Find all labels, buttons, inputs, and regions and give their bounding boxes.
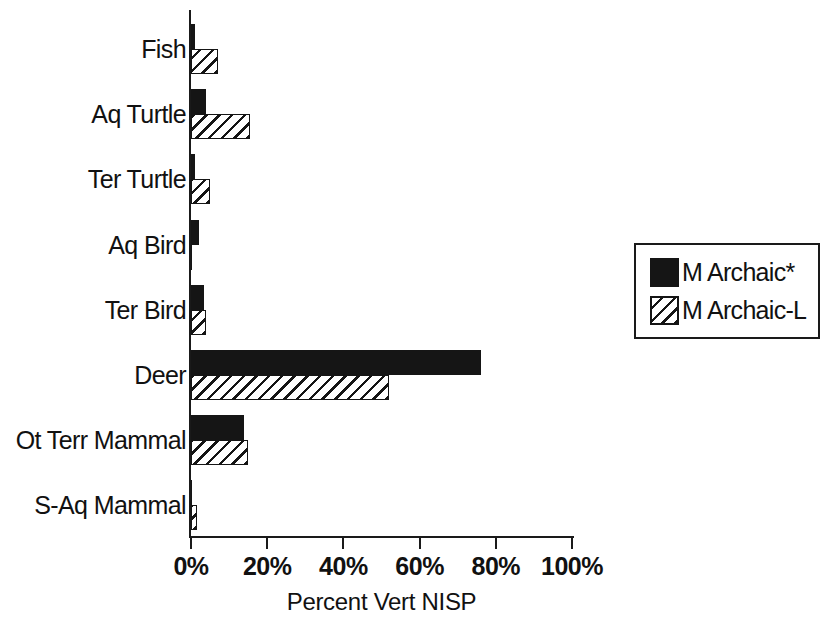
bar-m-archaic-l xyxy=(191,440,248,465)
bar-m-archaic-l xyxy=(191,505,197,530)
bar-m-archaic xyxy=(191,285,204,310)
bar-m-archaic xyxy=(191,89,206,114)
y-axis-label-s-aq-mammal: S-Aq Mammal xyxy=(34,491,186,520)
bar-m-archaic-l xyxy=(191,49,218,74)
x-axis-title: Percent Vert NISP xyxy=(191,588,572,616)
chart-legend: M Archaic* M Archaic-L xyxy=(634,243,820,339)
bar-m-archaic-l xyxy=(191,375,389,400)
bar-m-archaic-l xyxy=(191,245,192,270)
y-axis-label-ter-bird: Ter Bird xyxy=(105,295,186,324)
y-axis-label-ot-terr-mammal: Ot Terr Mammal xyxy=(16,426,186,455)
x-axis-tick xyxy=(266,538,268,549)
bar-m-archaic-l xyxy=(191,310,206,335)
y-axis-label-aq-bird: Aq Bird xyxy=(108,230,186,259)
y-axis-label-deer: Deer xyxy=(134,361,186,390)
x-axis-tick-label: 80% xyxy=(472,552,521,581)
legend-label-0: M Archaic* xyxy=(682,258,794,287)
x-axis-tick-label: 40% xyxy=(319,552,368,581)
x-axis-tick xyxy=(495,538,497,549)
bar-m-archaic-l xyxy=(191,179,210,204)
x-axis-tick-label: 60% xyxy=(395,552,444,581)
x-axis-tick xyxy=(571,538,573,549)
bar-m-archaic xyxy=(191,415,244,440)
bar-m-archaic xyxy=(191,480,192,505)
y-axis-label-aq-turtle: Aq Turtle xyxy=(91,100,186,129)
plot-area xyxy=(191,10,572,537)
legend-item-m-archaic: M Archaic* xyxy=(650,258,794,287)
y-axis-label-ter-turtle: Ter Turtle xyxy=(88,165,186,194)
bar-m-archaic xyxy=(191,220,199,245)
legend-item-m-archaic-l: M Archaic-L xyxy=(650,296,806,325)
bar-m-archaic xyxy=(191,24,195,49)
solid-black-swatch-icon xyxy=(650,258,679,287)
hatched-swatch-icon xyxy=(650,296,679,325)
x-axis-tick xyxy=(419,538,421,549)
bar-m-archaic xyxy=(191,154,195,179)
bar-m-archaic-l xyxy=(191,114,250,139)
x-axis-tick xyxy=(190,538,192,549)
legend-label-1: M Archaic-L xyxy=(682,296,806,325)
bar-m-archaic xyxy=(191,350,481,375)
y-axis-label-fish: Fish xyxy=(141,35,186,64)
x-axis-tick-label: 0% xyxy=(173,552,208,581)
bar-chart: 0%20%40%60%80%100% FishAq TurtleTer Turt… xyxy=(0,0,824,623)
x-axis-tick xyxy=(342,538,344,549)
x-axis-tick-label: 100% xyxy=(541,552,603,581)
x-axis-tick-label: 20% xyxy=(243,552,292,581)
